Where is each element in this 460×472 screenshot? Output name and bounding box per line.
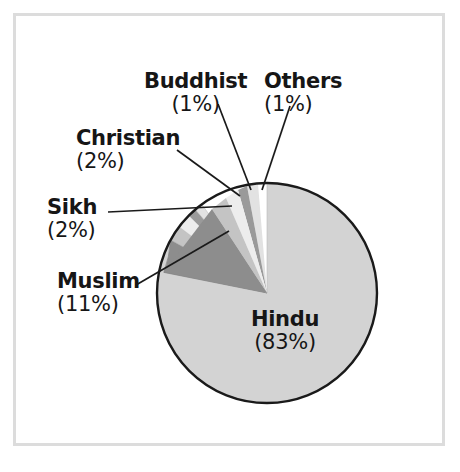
leader-line-buddhist: [218, 104, 251, 190]
pie-label-muslim-name: Muslim: [57, 270, 140, 292]
pie-label-others-percent: (1%): [264, 93, 342, 115]
pie-label-sikh-name: Sikh: [47, 196, 97, 218]
pie-label-hindu-name: Hindu: [230, 308, 340, 330]
pie-label-muslim: Muslim (11%): [57, 270, 140, 316]
pie-label-buddhist-percent: (1%): [144, 93, 247, 115]
pie-label-sikh: Sikh (2%): [47, 196, 97, 242]
pie-label-christian-name: Christian: [76, 127, 180, 149]
pie-label-sikh-percent: (2%): [47, 219, 97, 241]
leader-line-others: [262, 106, 290, 190]
pie-label-christian-percent: (2%): [76, 150, 180, 172]
pie-label-christian: Christian (2%): [76, 127, 180, 173]
pie-label-hindu-percent: (83%): [230, 331, 340, 353]
pie-label-muslim-percent: (11%): [57, 293, 140, 315]
chart-page: Buddhist (1%) Others (1%) Christian (2%)…: [0, 0, 460, 472]
pie-label-others: Others (1%): [264, 70, 342, 116]
pie-label-hindu: Hindu (83%): [230, 308, 340, 354]
pie-label-buddhist: Buddhist (1%): [144, 70, 247, 116]
pie-label-buddhist-name: Buddhist: [144, 70, 247, 92]
leader-line-christian: [177, 150, 240, 196]
pie-label-others-name: Others: [264, 70, 342, 92]
